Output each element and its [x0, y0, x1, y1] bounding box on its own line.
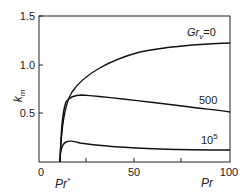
y-tick-label-0.5: 0.5 [20, 107, 35, 119]
x-axis-label: Pr [201, 176, 214, 190]
series-label-1e5: 105 [201, 132, 218, 146]
y-axis-label: km [11, 89, 27, 102]
x-ticks [86, 158, 181, 162]
series-label-gr0: Grv=0 [187, 26, 216, 41]
y-tick-label-1.5: 1.5 [20, 10, 35, 22]
series-label-500: 500 [199, 94, 217, 106]
y-ticks [39, 16, 43, 113]
chart-canvas: 0.5 1.0 1.5 0 50 100 km Pr Pr* Grv=0 500… [0, 0, 242, 192]
x-tick-label-100: 100 [220, 166, 238, 178]
svg-text:km: km [11, 89, 27, 102]
x-tick-label-50: 50 [128, 166, 140, 178]
pr-star-annotation: Pr* [55, 176, 71, 191]
y-tick-label-1.0: 1.0 [20, 59, 35, 71]
x-tick-label-0: 0 [38, 166, 44, 178]
